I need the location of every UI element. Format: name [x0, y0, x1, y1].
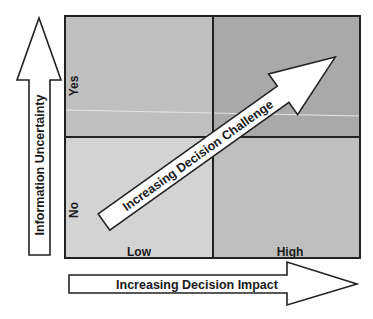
quadrant-bottom-right — [213, 137, 360, 258]
y-category-yes: Yes — [67, 75, 81, 96]
x-category-low: Low — [127, 245, 152, 259]
y-category-no: No — [67, 202, 81, 218]
decision-matrix-diagram: Information Uncertainty Increasing Decis… — [0, 0, 373, 319]
x-axis-label: Increasing Decision Impact — [116, 278, 279, 292]
quadrant-top-left — [65, 16, 213, 137]
y-axis-label: Information Uncertainty — [33, 94, 47, 235]
x-category-high: High — [277, 245, 304, 259]
